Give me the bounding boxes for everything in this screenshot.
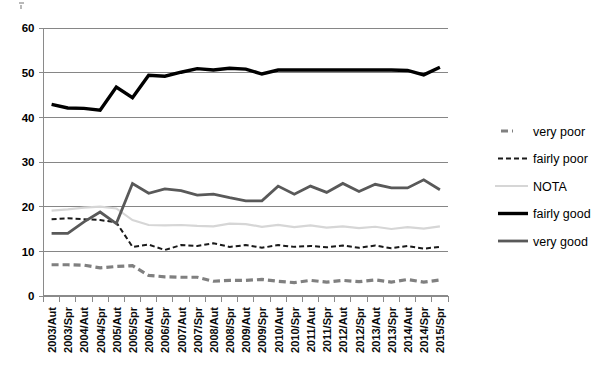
- chart-container: 0102030405060 2003/Aut2003/Spr2004/Aut20…: [0, 0, 607, 372]
- y-axis-tick-label: 0: [28, 290, 34, 302]
- x-axis-tick-label: 2012/Aut: [337, 307, 349, 353]
- x-axis-tick-label: 2007/Spr: [192, 306, 204, 353]
- x-axis-tick-label: 2005/Spr: [127, 306, 139, 353]
- x-axis-tick-label: 2011/Spr: [321, 306, 333, 352]
- x-axis-tick-label: 2009/Spr: [256, 306, 268, 353]
- x-axis-tick-label: 2010/Aut: [273, 307, 285, 353]
- legend-label: very good: [533, 235, 588, 249]
- x-axis-tick-label: 2009/Aut: [240, 307, 252, 353]
- y-axis-tick-label: 10: [22, 246, 35, 258]
- legend-label: NOTA: [533, 180, 567, 194]
- y-axis-tick-label: 50: [22, 67, 35, 79]
- x-axis-tick-label: 2008/Spr: [224, 306, 236, 353]
- legend-label: fairly poor: [533, 152, 588, 166]
- y-axis-tick-label: 60: [22, 22, 35, 34]
- x-axis-tick-label: 2013/Spr: [386, 306, 398, 353]
- x-axis-tick-label: 2007/Aut: [176, 307, 188, 353]
- x-axis-tick-label: 2005/Aut: [111, 307, 123, 353]
- x-axis-tick-label: 2013/Aut: [370, 307, 382, 353]
- x-axis-labels: 2003/Aut2003/Spr2004/Aut2004/Spr2005/Aut…: [46, 306, 446, 353]
- x-axis-tick-label: 2010/Spr: [289, 306, 301, 353]
- x-axis-tick-label: 2012/Spr: [354, 306, 366, 353]
- legend-label: fairly good: [533, 207, 591, 221]
- x-axis-tick-label: 2003/Aut: [46, 307, 58, 353]
- legend-label: very poor: [533, 125, 585, 139]
- y-axis-tick-label: 20: [22, 201, 35, 213]
- x-axis-tick-label: 2008/Aut: [208, 307, 220, 353]
- x-axis-tick-label: 2004/Spr: [95, 306, 107, 353]
- x-axis-tick-label: 2006/Spr: [159, 306, 171, 353]
- y-axis-tick-label: 40: [22, 112, 35, 124]
- line-chart: 0102030405060 2003/Aut2003/Spr2004/Aut20…: [0, 0, 607, 372]
- x-axis-tick-label: 2015/Spr: [434, 306, 446, 353]
- x-axis-tick-label: 2011/Aut: [305, 307, 317, 353]
- y-axis-tick-label: 30: [22, 156, 35, 168]
- x-axis-tick-label: 2006/Aut: [143, 307, 155, 353]
- x-axis-tick-label: 2004/Aut: [78, 307, 90, 353]
- x-axis-tick-label: 2003/Spr: [62, 306, 74, 353]
- x-axis-tick-label: 2014/Aut: [402, 307, 414, 353]
- x-axis-tick-label: 2014/Spr: [418, 306, 430, 353]
